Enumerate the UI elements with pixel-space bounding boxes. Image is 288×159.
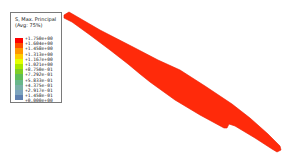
legend-color-band bbox=[15, 95, 23, 100]
legend-label: +7.292e-01 bbox=[25, 72, 53, 77]
legend-title: S, Max. Principal (Avg: 75%) bbox=[15, 16, 56, 28]
legend-value-labels: +1.750e+00 +1.604e+00 +1.458e+00 +1.313e… bbox=[25, 36, 53, 104]
beam-contour bbox=[64, 12, 281, 152]
contour-legend: S, Max. Principal (Avg: 75%) +1.750e+00 … bbox=[10, 12, 62, 103]
legend-title-averaging: (Avg: 75%) bbox=[15, 22, 56, 28]
legend-label: +0.000e+00 bbox=[25, 98, 53, 103]
legend-label: +1.458e+00 bbox=[25, 46, 53, 51]
model-viewport[interactable]: S, Max. Principal (Avg: 75%) +1.750e+00 … bbox=[0, 0, 288, 159]
legend-color-bar bbox=[15, 38, 23, 100]
